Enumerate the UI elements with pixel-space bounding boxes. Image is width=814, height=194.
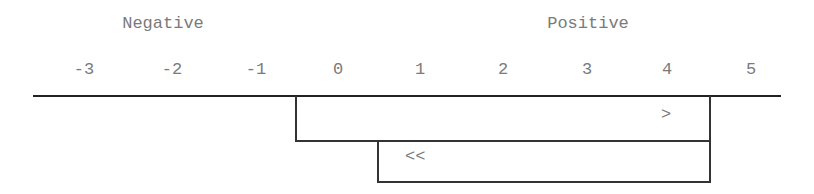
tick-label: 4 [662,60,672,79]
tick-label: 0 [333,60,343,79]
interval-symbol-1: > [661,105,671,124]
label-negative: Negative [122,14,204,33]
tick-label: 5 [746,60,756,79]
tick-label: 2 [498,60,508,79]
tick-label: 3 [582,60,592,79]
tick-label: -3 [74,60,94,79]
interval-box-2 [377,140,711,183]
tick-label: -2 [162,60,182,79]
interval-symbol-2: << [405,147,425,166]
tick-label: -1 [246,60,266,79]
label-positive: Positive [547,14,629,33]
tick-label: 1 [415,60,425,79]
interval-box-1 [295,96,711,142]
